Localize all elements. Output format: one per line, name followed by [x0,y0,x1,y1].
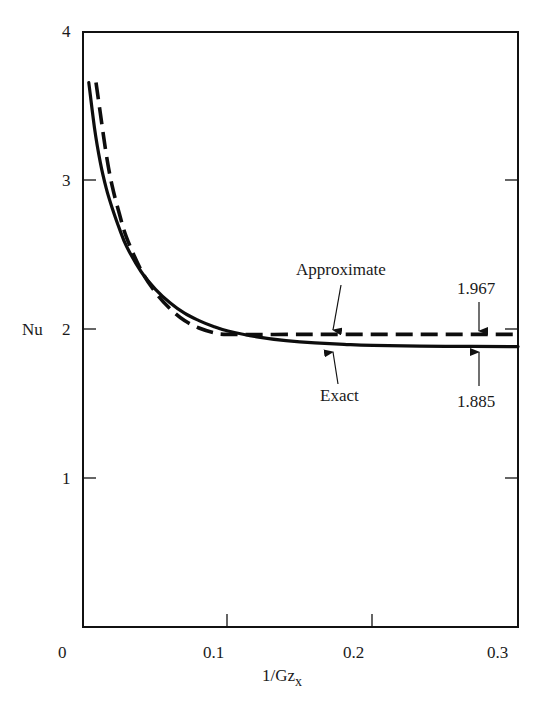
approximate-arrow [333,285,341,330]
exact-label: Exact [320,386,359,405]
y-tick-label: 1 [62,469,71,488]
y-tick-label: 2 [62,320,71,339]
y-ticks [83,180,518,478]
x-tick-label: 0.2 [343,643,364,662]
nusselt-chart: 4 3 2 1 Nu 0 0.1 0.2 0.3 1/Gzx Approxima… [0,0,548,713]
y-tick-label: 4 [62,22,71,41]
approximate-curve [96,83,518,335]
x-axis-label: 1/Gzx [262,666,302,689]
x-tick-label: 0 [58,643,67,662]
plot-frame [83,32,518,627]
exact-curve [89,83,518,347]
x-ticks [227,614,372,627]
y-axis-label: Nu [22,320,43,339]
exact-arrow [333,352,338,384]
value-exact-label: 1.885 [457,392,495,411]
y-tick-label: 3 [62,171,71,190]
value-approximate-label: 1.967 [457,279,496,298]
approximate-label: Approximate [296,260,386,279]
x-tick-label: 0.1 [203,643,224,662]
x-tick-label: 0.3 [487,643,508,662]
